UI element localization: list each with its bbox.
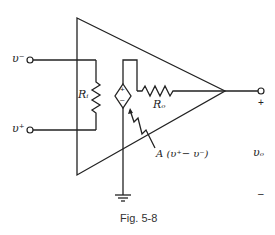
output-terminal — [258, 88, 264, 94]
output-minus-sign: – — [258, 188, 264, 199]
ro-resistor — [137, 86, 258, 96]
gain-expression: A (υ⁺− υ⁻) — [156, 148, 208, 159]
op-amp-equivalent-circuit — [0, 0, 275, 235]
source-plus-sign: + — [120, 85, 125, 94]
ro-label: Rₒ — [153, 98, 166, 111]
source-minus-sign: – — [120, 95, 124, 104]
output-plus-sign: + — [258, 97, 264, 108]
ri-resistor — [92, 60, 100, 130]
v-plus-terminal — [27, 127, 33, 133]
v-minus-terminal — [27, 57, 33, 63]
ri-label: Rᵢ — [78, 88, 89, 101]
v-out-label: υₒ — [253, 146, 264, 159]
v-plus-label: υ⁺ — [12, 122, 25, 135]
v-minus-label: υ⁻ — [12, 52, 25, 65]
figure-caption: Fig. 5-8 — [120, 212, 157, 224]
